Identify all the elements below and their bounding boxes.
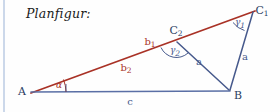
side-label-a-c1b: a — [242, 51, 248, 62]
side-label-b1: b1 — [144, 36, 155, 49]
side-label-c: c — [127, 96, 133, 107]
geometry-svg: A B C1 C2 b1 b2 a a c α — [0, 0, 280, 112]
planfigur-diagram: Planfigur: A B C1 C2 — [0, 0, 280, 112]
vertex-label-c2: C2 — [169, 24, 182, 38]
angle-label-gamma1: γ1 — [235, 17, 245, 30]
line-c2-to-b — [177, 42, 229, 90]
side-label-a-c2b: a — [196, 56, 202, 67]
line-a-to-b-baseline — [31, 91, 230, 92]
vertex-label-b: B — [234, 89, 242, 102]
angle-label-gamma2: γ2 — [170, 45, 180, 58]
vertex-label-c1: C1 — [255, 4, 268, 18]
line-a-to-c1-red — [31, 11, 255, 93]
angle-label-alpha: α — [56, 80, 62, 90]
side-label-b2: b2 — [120, 62, 131, 75]
vertex-label-a: A — [17, 85, 27, 98]
